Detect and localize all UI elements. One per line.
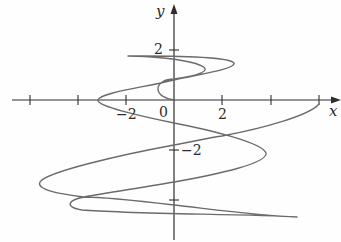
plot-canvas (0, 0, 341, 242)
y-axis-arrow-icon (171, 4, 178, 14)
y-tick-label-neg2: −2 (181, 143, 202, 157)
x-tick-label-pos2: 2 (218, 107, 227, 121)
parametric-curve-plot: y x 0 −2 2 2 −2 (0, 0, 341, 242)
origin-label: 0 (159, 105, 168, 119)
x-axis-label: x (329, 104, 337, 119)
x-tick-label-neg2: −2 (116, 107, 137, 121)
y-tick-label-pos2: 2 (154, 42, 163, 56)
y-axis-label: y (156, 4, 164, 19)
curve-path (40, 56, 319, 217)
